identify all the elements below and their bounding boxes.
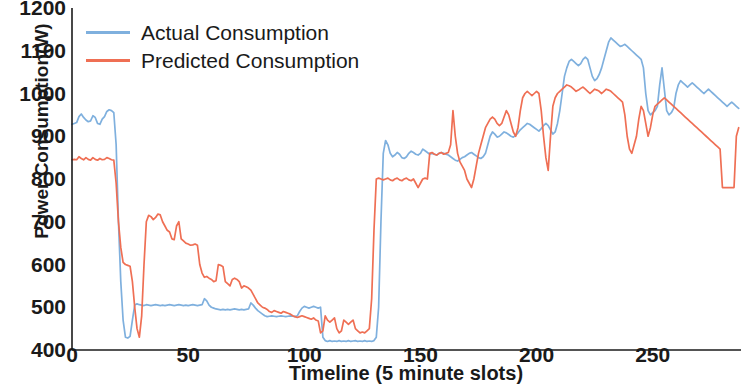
legend-item-predicted: Predicted Consumption — [86, 50, 359, 71]
power-consumption-chart: 120011001000900800700600500400 050100150… — [0, 0, 742, 388]
y-tick-500: 500 — [31, 296, 66, 317]
series-line-predicted — [72, 85, 739, 337]
series-line-actual — [72, 38, 739, 342]
chart-legend: Actual Consumption Predicted Consumption — [86, 22, 359, 71]
legend-swatch-predicted — [86, 59, 130, 62]
legend-label-actual: Actual Consumption — [141, 22, 329, 43]
legend-swatch-actual — [86, 31, 130, 34]
legend-item-actual: Actual Consumption — [86, 22, 359, 43]
series-layer — [72, 38, 739, 342]
x-axis-label: Timeline (5 minute slots) — [72, 362, 740, 385]
y-axis-label: Power Consumption(W) — [31, 1, 53, 261]
legend-label-predicted: Predicted Consumption — [141, 50, 359, 71]
